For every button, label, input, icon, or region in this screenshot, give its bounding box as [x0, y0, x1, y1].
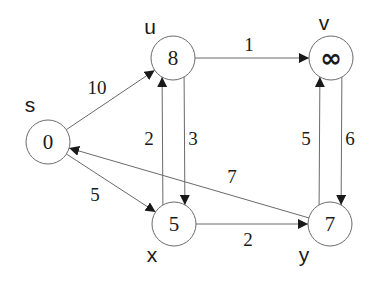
graph-canvas: 1051235627 0s8u∞v5x7y: [0, 0, 373, 284]
edge-weight-s-to-x: 5: [90, 184, 100, 205]
node-v: ∞v: [309, 11, 353, 80]
edge-weight-x-to-u: 3: [188, 128, 198, 149]
edge-weight-u-to-v: 1: [244, 34, 254, 55]
edge-weight-x-to-y: 2: [243, 229, 253, 250]
node-y: 7y: [299, 202, 352, 266]
edge-v-to-y: [341, 77, 342, 205]
node-distance: ∞: [320, 43, 342, 73]
node-name: x: [147, 243, 158, 266]
edge-weight-y-to-v: 6: [345, 128, 355, 149]
node-name: v: [319, 11, 330, 34]
edge-x-to-u: [162, 77, 163, 205]
node-distance: 0: [43, 130, 54, 154]
edge-weight-y-to-s: 7: [227, 166, 237, 187]
node-name: y: [299, 243, 310, 266]
node-distance: 8: [168, 46, 179, 70]
node-distance: 7: [325, 212, 336, 236]
edge-u-to-x: [184, 77, 185, 205]
node-distance: 5: [169, 212, 180, 236]
node-name: u: [144, 15, 156, 38]
node-name: s: [25, 93, 36, 116]
edge-weight-u-to-x: 2: [144, 128, 154, 149]
node-s: 0s: [25, 93, 70, 164]
edge-s-to-u: [66, 70, 154, 129]
edge-weight-s-to-u: 10: [88, 77, 107, 98]
node-u: 8u: [144, 15, 195, 80]
edge-s-to-x: [66, 154, 155, 212]
edge-y-to-v: [319, 77, 320, 205]
edge-weight-v-to-y: 5: [301, 128, 311, 149]
